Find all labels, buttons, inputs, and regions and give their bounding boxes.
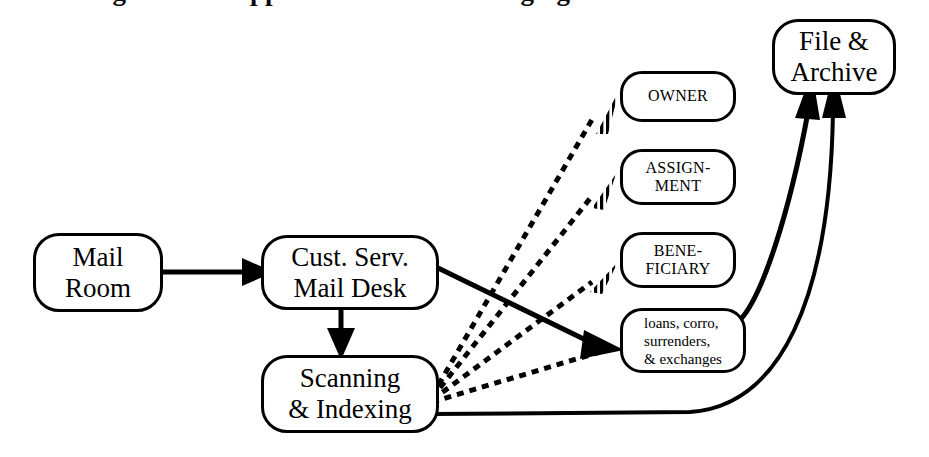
node-beneficiary[interactable]: BENE- FICIARY: [620, 232, 736, 288]
node-scanning-indexing[interactable]: Scanning & Indexing: [261, 355, 439, 433]
node-file-archive[interactable]: File & Archive: [772, 19, 896, 95]
edge-custserv-to-loans: [438, 268, 624, 359]
node-scanning-indexing-label: Scanning & Indexing: [288, 363, 412, 425]
node-loans-label: loans, corro, surrenders, & exchanges: [644, 314, 722, 368]
node-cust-serv-mail-desk-label: Cust. Serv. Mail Desk: [291, 242, 409, 304]
node-beneficiary-label: BENE- FICIARY: [645, 242, 710, 278]
workflow-diagram: figure Mail Approach Workflow Imaging: [0, 0, 929, 457]
edge-scanning-to-loans: [432, 352, 600, 402]
node-loans-corro-surrenders-exchanges[interactable]: loans, corro, surrenders, & exchanges: [620, 308, 746, 373]
node-owner-label: OWNER: [648, 87, 708, 105]
diagram-title-clipped: figure Mail Approach Workflow Imaging: [0, 0, 929, 9]
node-file-archive-label: File & Archive: [791, 26, 878, 88]
node-assignment-label: ASSIGN- MENT: [645, 159, 710, 195]
node-mail-room[interactable]: Mail Room: [33, 233, 163, 312]
edge-loans-to-archive: [738, 72, 820, 322]
node-assignment[interactable]: ASSIGN- MENT: [620, 149, 736, 205]
edge-scanning-to-assignment: [432, 174, 616, 398]
edge-mailroom-to-custserv: [163, 258, 274, 286]
node-mail-room-label: Mail Room: [65, 242, 131, 304]
edge-custserv-to-scanning: [327, 306, 355, 360]
diagram-title-text: figure Mail Approach Workflow Imaging: [96, 0, 570, 7]
node-cust-serv-mail-desk[interactable]: Cust. Serv. Mail Desk: [261, 235, 439, 310]
node-owner[interactable]: OWNER: [620, 71, 736, 122]
